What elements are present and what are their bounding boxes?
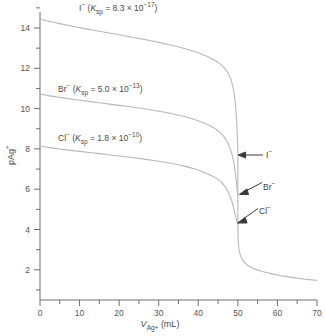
chart-figure: 14 12 10 8 6 4 2 0 10 20 30 40 50 60 70 … [0, 0, 325, 336]
curve-label-bromide: Br− (Ksp = 5.0 × 10−13) [58, 84, 143, 94]
annotation-iodide-charge: − [268, 148, 272, 155]
x-axis-title: VAg+ (mL) [100, 319, 220, 329]
x-tick-label-60: 60 [267, 308, 287, 318]
annotation-label-iodide: I− [266, 150, 272, 160]
curve-Br- [40, 94, 238, 196]
y-axis-title: pAg+ [6, 133, 16, 177]
chloride-exponent: −10 [128, 131, 139, 138]
y-tick-label-4: 4 [10, 225, 30, 235]
titration-curves [40, 19, 317, 280]
y-tick-label-10: 10 [10, 104, 30, 114]
curve-label-iodide: I− (Ksp = 8.3 × 10−17) [79, 3, 157, 13]
iodide-ksp-subscript: sp [96, 8, 103, 15]
y-tick-label-14: 14 [10, 23, 30, 33]
x-tick-label-70: 70 [307, 308, 325, 318]
arrow-bromide [239, 183, 262, 195]
x-axis-title-subscript: Ag [147, 324, 155, 331]
iodide-mantissa: 8.3 × 10 [113, 3, 144, 13]
iodide-equals: = [103, 3, 113, 13]
chloride-mantissa: 1.8 × 10 [97, 133, 128, 143]
x-tick-label-40: 40 [188, 308, 208, 318]
arrow-chloride [238, 209, 259, 224]
annotation-chloride-charge: − [267, 204, 271, 211]
iodide-paren-close: ) [155, 3, 158, 13]
annotation-label-chloride: Cl− [259, 206, 271, 216]
arrow-iodide [238, 152, 263, 158]
y-major-ticks [34, 28, 40, 270]
x-axis-title-units: (mL) [158, 319, 179, 329]
x-tick-label-0: 0 [30, 308, 50, 318]
bromide-paren-close: ) [140, 84, 143, 94]
chloride-equals: = [88, 133, 98, 143]
curve-label-chloride: Cl− (Ksp = 1.8 × 10−10) [58, 133, 142, 143]
iodide-exponent: −17 [144, 1, 155, 8]
axis-lines [40, 12, 317, 300]
bromide-species: Br [58, 84, 67, 94]
curve-Cl- [40, 146, 238, 224]
annotation-label-bromide: Br− [263, 182, 275, 192]
annotation-chloride-species: Cl [259, 206, 267, 216]
annotation-bromide-charge: − [272, 180, 276, 187]
y-axis-title-text: pAg [6, 149, 16, 165]
x-tick-label-10: 10 [70, 308, 90, 318]
bromide-mantissa: 5.0 × 10 [98, 84, 129, 94]
y-tick-label-6: 6 [10, 184, 30, 194]
x-minor-ticks [60, 300, 297, 304]
chloride-ksp-subscript: sp [81, 138, 88, 145]
y-tick-label-2: 2 [10, 265, 30, 275]
annotation-bromide-species: Br [263, 182, 272, 192]
y-axis-title-charge: + [4, 145, 11, 149]
bromide-exponent: −13 [129, 82, 140, 89]
titration-curve-plot [0, 0, 325, 336]
y-tick-label-12: 12 [10, 63, 30, 73]
x-tick-label-20: 20 [109, 308, 129, 318]
x-tick-label-50: 50 [228, 308, 248, 318]
chloride-paren-close: ) [139, 133, 142, 143]
bromide-equals: = [88, 84, 98, 94]
x-tick-label-30: 30 [149, 308, 169, 318]
curve-excess-titrant-tail [238, 224, 317, 280]
chloride-species: Cl [58, 133, 66, 143]
